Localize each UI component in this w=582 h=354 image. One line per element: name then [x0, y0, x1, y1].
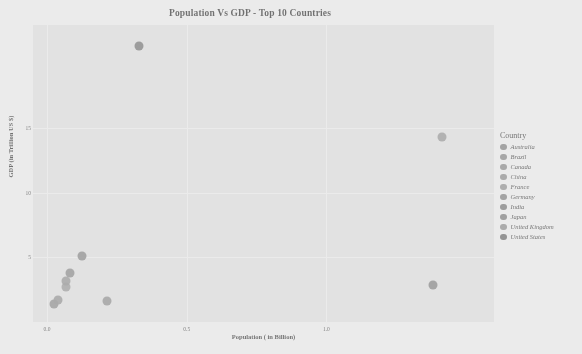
x-axis-label: Population ( in Billion)	[33, 333, 494, 340]
data-point	[437, 133, 446, 142]
gridline-horizontal	[33, 257, 494, 258]
legend-item[interactable]: France	[500, 182, 580, 192]
legend-marker-icon	[500, 184, 507, 191]
legend-item[interactable]: Japan	[500, 212, 580, 222]
legend-marker-icon	[500, 214, 507, 221]
legend-item-label: India	[511, 204, 525, 211]
x-tick-label: 1.0	[323, 326, 330, 332]
legend-item[interactable]: China	[500, 172, 580, 182]
gridline-vertical	[47, 25, 48, 322]
legend-item[interactable]: India	[500, 202, 580, 212]
legend-item-label: United Kingdom	[511, 224, 554, 231]
y-tick-label: 15	[20, 125, 31, 131]
legend-marker-icon	[500, 174, 507, 181]
plot-area	[33, 25, 494, 322]
gridline-vertical	[187, 25, 188, 322]
legend-marker-icon	[500, 164, 507, 171]
legend-marker-icon	[500, 234, 507, 241]
data-point	[135, 41, 144, 50]
legend-item[interactable]: Canada	[500, 162, 580, 172]
legend-marker-icon	[500, 194, 507, 201]
legend-item-label: United States	[511, 234, 546, 241]
legend-marker-icon	[500, 204, 507, 211]
scatter-plot-figure: Population Vs GDP - Top 10 Countries 0.0…	[0, 0, 582, 354]
legend-marker-icon	[500, 144, 507, 151]
page-title: Population Vs GDP - Top 10 Countries	[0, 8, 500, 18]
legend: Country AustraliaBrazilCanadaChinaFrance…	[500, 131, 580, 242]
legend-item[interactable]: Australia	[500, 142, 580, 152]
y-tick-label: 5	[20, 254, 31, 260]
legend-item[interactable]: United Kingdom	[500, 222, 580, 232]
legend-title: Country	[500, 131, 580, 140]
x-tick-label: 0.0	[44, 326, 51, 332]
legend-item[interactable]: Germany	[500, 192, 580, 202]
gridline-vertical	[326, 25, 327, 322]
y-tick-label: 10	[20, 190, 31, 196]
data-point	[78, 252, 87, 261]
x-tick-label: 0.5	[183, 326, 190, 332]
y-axis-label: GDP (in Trillion US $)	[7, 87, 14, 207]
data-point	[102, 297, 111, 306]
legend-item-label: China	[511, 174, 527, 181]
data-point	[62, 276, 71, 285]
legend-item-label: Japan	[511, 214, 527, 221]
gridline-horizontal	[33, 128, 494, 129]
legend-item[interactable]: United States	[500, 232, 580, 242]
data-point	[428, 280, 437, 289]
legend-item-list: AustraliaBrazilCanadaChinaFranceGermanyI…	[500, 142, 580, 242]
legend-marker-icon	[500, 224, 507, 231]
legend-item[interactable]: Brazil	[500, 152, 580, 162]
legend-item-label: France	[511, 184, 530, 191]
data-point	[53, 296, 62, 305]
legend-item-label: Germany	[511, 194, 535, 201]
gridline-horizontal	[33, 193, 494, 194]
legend-marker-icon	[500, 154, 507, 161]
legend-item-label: Australia	[511, 144, 535, 151]
legend-item-label: Canada	[511, 164, 532, 171]
legend-item-label: Brazil	[511, 154, 527, 161]
